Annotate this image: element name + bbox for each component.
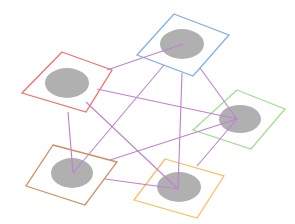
edge-1	[97, 89, 237, 119]
edge-7	[110, 119, 237, 160]
network-diagram	[0, 0, 295, 224]
node-blob-green	[219, 105, 261, 133]
node-blob-red	[45, 68, 89, 98]
